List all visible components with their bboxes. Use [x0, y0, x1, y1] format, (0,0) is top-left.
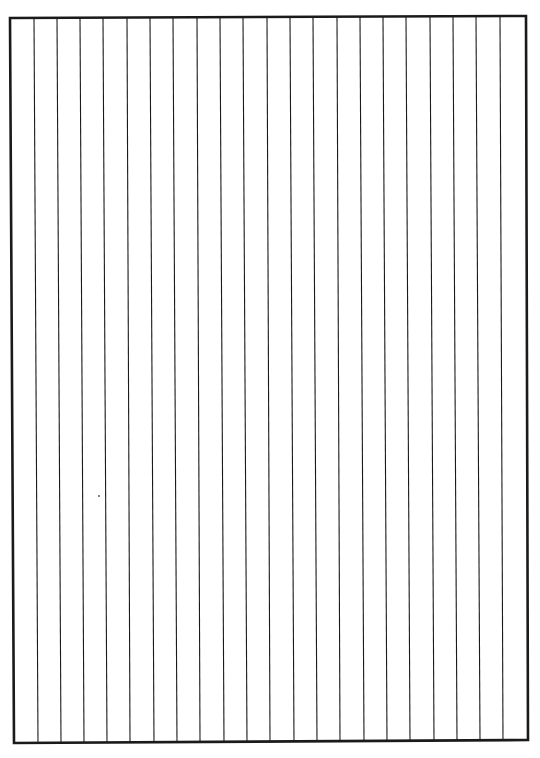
vertical-rule-line: [383, 17, 387, 741]
vertical-rule-line: [127, 18, 130, 743]
vertical-rule-line: [360, 17, 364, 741]
stray-dot-mark: [98, 495, 100, 497]
vertical-rule-line: [34, 18, 38, 743]
vertical-ruled-sheet: [0, 0, 540, 758]
vertical-rule-line: [57, 18, 61, 743]
vertical-rule-line: [313, 17, 317, 741]
vertical-rule-line: [220, 17, 224, 742]
vertical-rules: [34, 16, 503, 743]
vertical-rule-line: [80, 18, 84, 743]
vertical-rule-line: [337, 17, 340, 741]
vertical-rule-line: [453, 16, 457, 740]
vertical-rule-line: [476, 16, 480, 740]
vertical-rule-line: [290, 17, 294, 741]
ruled-paper-page: [0, 0, 540, 758]
vertical-rule-line: [103, 18, 107, 743]
ruled-lines-graphic: [0, 0, 540, 758]
vertical-rule-line: [150, 17, 154, 742]
vertical-rule-line: [243, 17, 247, 742]
vertical-rule-line: [430, 16, 434, 740]
vertical-rule-line: [406, 16, 410, 740]
vertical-rule-line: [197, 17, 200, 742]
vertical-rule-line: [173, 17, 177, 742]
vertical-rule-line: [500, 16, 503, 740]
stray-marks: [98, 495, 100, 497]
vertical-rule-line: [267, 17, 270, 742]
